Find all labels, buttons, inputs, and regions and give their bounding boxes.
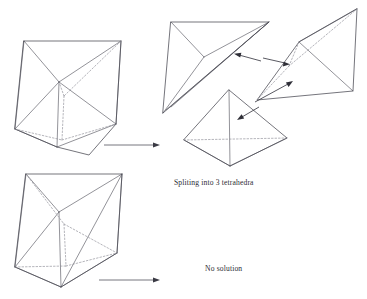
tetrahedron-top-middle (163, 22, 269, 113)
prism-bottom-left-hidden-base-right (66, 253, 117, 266)
tetra-top-middle-edge-c (163, 57, 204, 113)
tetra-top-right-edge-a (299, 42, 353, 91)
prism-top-left (15, 41, 121, 155)
tetra-top-right-hidden-c (257, 66, 289, 100)
figure-canvas: Spliting into 3 tetrahedra No solution (0, 0, 367, 299)
prism-top-left-diag-d (59, 82, 116, 124)
tetrahedron-bottom-middle (184, 90, 287, 166)
tetra-top-right-outline (257, 9, 357, 100)
prism-top-left-outline (15, 41, 121, 155)
flow-arrow-no-solution-head (153, 277, 160, 282)
pointer-to-top-right (263, 58, 290, 67)
prism-bottom-left-bottom-left-edge (15, 267, 61, 287)
prism-bottom-left-diag-a (26, 174, 59, 212)
prism-top-left-hidden-base-right (62, 124, 116, 140)
prism-top-left-bottom-left-edge (15, 129, 57, 147)
tetra-bottom-middle-lower-left (184, 140, 230, 166)
pointer-to-right-tetra-shaft (255, 84, 288, 102)
pointer-to-bottom-middle-shaft (242, 107, 259, 117)
pointer-to-bottom-middle (237, 107, 259, 120)
prism-bottom-left-diag-b (59, 174, 122, 212)
prism-bottom-left-left-vertical (15, 174, 26, 267)
pointer-to-right-tetra (255, 81, 293, 102)
prism-bottom-left-diag-d (61, 174, 122, 287)
tetra-bottom-middle-lower-right (230, 138, 287, 166)
prism-bottom-left-hidden-diag-b (64, 224, 117, 253)
prism-top-left-left-vertical (15, 41, 24, 129)
prism-bottom-left-front-vertical (59, 212, 61, 287)
prism-top-left-diag-c (15, 82, 59, 129)
prism-bottom-left-outline (15, 174, 122, 287)
pointer-to-top-middle-shaft (239, 55, 261, 61)
prism-bottom-left-hidden-vertical (64, 224, 66, 266)
tetra-bottom-middle-outline (184, 90, 287, 166)
tetrahedron-top-right (257, 9, 357, 100)
prism-top-left-hidden-vertical (62, 96, 64, 140)
pointer-to-top-middle (234, 53, 261, 61)
prism-top-left-bottom-right-edge (57, 124, 116, 147)
prism-bottom-left (15, 174, 122, 287)
prism-bottom-left-bottom-right-edge (61, 253, 117, 287)
prism-top-left-hidden-diag (64, 41, 121, 96)
tetra-top-middle-edge-b (204, 22, 269, 57)
flow-arrow-no-solution (99, 277, 160, 282)
prism-top-left-hidden-base-left (15, 129, 62, 140)
geometry-figure (0, 0, 367, 299)
prism-bottom-left-diag-c (15, 212, 59, 267)
pointer-to-top-middle-head (234, 53, 241, 58)
flow-arrow-split (104, 142, 160, 147)
caption-no-solution: No solution (205, 264, 242, 273)
prism-top-left-front-vertical (57, 82, 59, 147)
caption-split-into-tetrahedra: Spliting into 3 tetrahedra (174, 178, 254, 187)
flow-arrow-split-head (153, 142, 160, 147)
pointer-to-right-tetra-head (286, 81, 293, 87)
tetra-top-right-edge-b (299, 9, 357, 42)
prism-top-left-right-vertical (116, 41, 121, 124)
prism-top-left-diag-a (24, 41, 59, 82)
prism-bottom-left-right-vertical (117, 174, 122, 253)
tetra-bottom-middle-vertical (229, 90, 230, 166)
tetra-top-right-hidden-a (289, 9, 357, 66)
prism-bottom-left-hidden-base-left (15, 266, 66, 267)
pointer-to-top-right-shaft (263, 58, 285, 63)
tetra-bottom-middle-hidden-base (184, 138, 287, 140)
prism-top-left-diag-b (59, 41, 121, 82)
prism-bottom-left-hidden-diag-a (26, 174, 64, 224)
tetra-top-middle-edge-a (171, 22, 204, 57)
pointer-to-bottom-middle-head (237, 114, 244, 120)
tetra-top-middle-crease2 (171, 22, 269, 107)
